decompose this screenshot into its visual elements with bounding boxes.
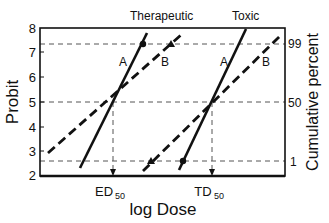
therapeutic-a-circle-marker [140,41,146,47]
svg-text:99: 99 [288,37,302,51]
toxic-line-a-label: A [220,55,228,69]
toxic-a-circle-marker [180,158,186,164]
toxic-label: Toxic [232,9,259,23]
svg-text:6: 6 [29,70,36,85]
therapeutic-line-a-label: A [119,55,127,69]
y-tick-labels: 8 7 6 5 4 3 2 [29,21,36,183]
therapeutic-line-b-label: B [161,55,169,69]
svg-text:3: 3 [29,144,36,159]
x-axis-title: log Dose [129,200,196,219]
svg-text:ED: ED [95,184,113,199]
toxic-line-b-label: B [262,55,270,69]
svg-text:5: 5 [29,95,36,110]
svg-text:TD: TD [194,184,211,199]
ed50-label: ED 50 [95,184,125,201]
td50-label: TD 50 [194,184,224,201]
svg-text:7: 7 [29,45,36,60]
therapeutic-line-b [48,35,181,153]
svg-text:1: 1 [290,155,297,169]
probit-chart: Therapeutic Toxic A B A B 8 7 6 5 4 3 2 … [0,0,329,223]
svg-text:50: 50 [214,191,224,201]
svg-text:8: 8 [29,21,36,36]
svg-text:4: 4 [29,120,36,135]
right-tick-labels: 99 50 1 [288,37,302,169]
svg-text:50: 50 [115,191,125,201]
therapeutic-label: Therapeutic [130,9,193,23]
svg-text:50: 50 [288,96,302,110]
y-axis-title: Probit [3,80,22,125]
right-axis-title: Cumulative percent [304,33,321,171]
svg-text:2: 2 [29,168,36,183]
